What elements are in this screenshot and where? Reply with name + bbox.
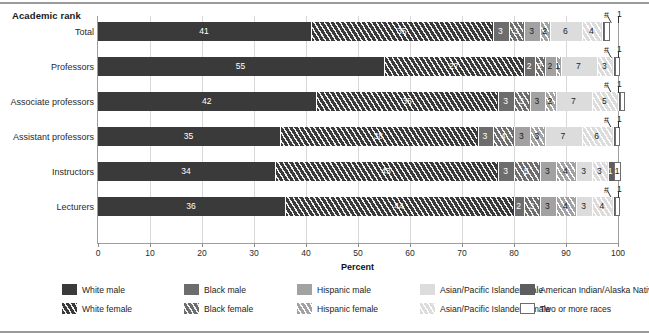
segment-wm[interactable]: 55 bbox=[98, 57, 384, 76]
segment-hf[interactable]: 4 bbox=[556, 162, 577, 181]
bar-0[interactable]: 4135333264 bbox=[98, 22, 610, 41]
segment-bf[interactable]: 3 bbox=[514, 92, 530, 111]
legend: White maleBlack maleHispanic maleAsian/P… bbox=[0, 284, 649, 330]
segment-wm[interactable]: 34 bbox=[98, 162, 275, 181]
segment-bm[interactable]: 3 bbox=[498, 162, 514, 181]
bar-1[interactable]: 5527222173 bbox=[98, 57, 620, 76]
segment-wm[interactable]: 36 bbox=[98, 197, 285, 216]
segment-value: 2 bbox=[548, 62, 553, 71]
bar-4[interactable]: 344335343311 bbox=[98, 162, 621, 181]
segment-wf[interactable]: 35 bbox=[316, 92, 498, 111]
segment-bm[interactable]: 3 bbox=[498, 92, 514, 111]
segment-bf[interactable]: 5 bbox=[514, 162, 540, 181]
segment-hm[interactable]: 3 bbox=[530, 92, 546, 111]
segment-value: 3 bbox=[597, 167, 602, 176]
segment-hf[interactable]: 4 bbox=[556, 197, 577, 216]
segment-hm[interactable]: 3 bbox=[514, 127, 530, 146]
segment-af[interactable]: 6 bbox=[582, 127, 613, 146]
segment-am[interactable]: 7 bbox=[545, 127, 581, 146]
segment-bf[interactable]: 2 bbox=[535, 57, 545, 76]
chart-root: Academic rank 0102030405060708090100 Per… bbox=[0, 0, 649, 335]
segment-hf[interactable]: 2 bbox=[545, 92, 555, 111]
segment-tm[interactable] bbox=[604, 22, 609, 41]
segment-bm[interactable]: 2 bbox=[524, 57, 534, 76]
annotation-leader-one bbox=[618, 16, 619, 23]
segment-tm[interactable] bbox=[620, 92, 625, 111]
segment-af[interactable]: 4 bbox=[592, 197, 613, 216]
segment-wm[interactable]: 41 bbox=[98, 22, 311, 41]
legend-item-bm[interactable]: Black male bbox=[184, 284, 246, 295]
row-label-5: Lecturers bbox=[56, 201, 94, 213]
segment-af[interactable]: 3 bbox=[597, 57, 613, 76]
row-label-2: Associate professors bbox=[10, 96, 94, 108]
legend-swatch-hf bbox=[297, 303, 312, 314]
segment-bf[interactable]: 4 bbox=[493, 127, 514, 146]
x-axis-label-wrap: Percent bbox=[97, 262, 618, 272]
legend-label-hf: Hispanic female bbox=[317, 304, 378, 314]
legend-item-bf[interactable]: Black female bbox=[184, 303, 253, 314]
segment-value: 27 bbox=[449, 62, 458, 71]
legend-item-ai[interactable]: American Indian/Alaska Native bbox=[520, 284, 649, 295]
legend-item-wf[interactable]: White female bbox=[62, 303, 132, 314]
tick-70 bbox=[462, 243, 463, 247]
segment-am[interactable]: 7 bbox=[561, 57, 597, 76]
segment-bm[interactable]: 3 bbox=[493, 22, 509, 41]
segment-value: 7 bbox=[571, 97, 576, 106]
row-label-3: Assistant professors bbox=[13, 131, 94, 143]
bar-2[interactable]: 4235333275 bbox=[98, 92, 625, 111]
segment-bf[interactable]: 3 bbox=[524, 197, 540, 216]
tick-50 bbox=[358, 243, 359, 247]
segment-af[interactable]: 5 bbox=[592, 92, 618, 111]
legend-swatch-bf bbox=[184, 303, 199, 314]
axis-group-title: Academic rank bbox=[12, 10, 81, 21]
tick-30 bbox=[254, 243, 255, 247]
segment-tm[interactable] bbox=[615, 57, 620, 76]
row-label-4: Instructors bbox=[52, 166, 94, 178]
segment-value: 42 bbox=[202, 97, 211, 106]
segment-bf[interactable]: 3 bbox=[509, 22, 525, 41]
segment-value: 35 bbox=[402, 97, 411, 106]
legend-item-tm[interactable]: Two or more races bbox=[520, 303, 611, 314]
segment-hf[interactable]: 2 bbox=[540, 22, 550, 41]
segment-am[interactable]: 7 bbox=[556, 92, 592, 111]
segment-am[interactable]: 3 bbox=[576, 162, 592, 181]
legend-item-hm[interactable]: Hispanic male bbox=[297, 284, 371, 295]
bar-5[interactable]: 3644233434 bbox=[98, 197, 620, 216]
segment-value: 6 bbox=[594, 132, 599, 141]
segment-wf[interactable]: 44 bbox=[285, 197, 514, 216]
segment-hm[interactable]: 3 bbox=[540, 197, 556, 216]
segment-wf[interactable]: 35 bbox=[311, 22, 493, 41]
segment-wm[interactable]: 42 bbox=[98, 92, 316, 111]
segment-wf[interactable]: 43 bbox=[275, 162, 499, 181]
segment-wf[interactable]: 27 bbox=[384, 57, 524, 76]
segment-hf[interactable]: 3 bbox=[530, 127, 546, 146]
legend-item-hf[interactable]: Hispanic female bbox=[297, 303, 378, 314]
top-divider bbox=[0, 2, 649, 4]
segment-hm[interactable]: 3 bbox=[524, 22, 540, 41]
segment-wf[interactable]: 38 bbox=[280, 127, 478, 146]
bar-3[interactable]: 3538343376 bbox=[98, 127, 620, 146]
segment-tm[interactable] bbox=[615, 197, 620, 216]
segment-tm[interactable] bbox=[615, 127, 620, 146]
tick-label-50: 50 bbox=[353, 248, 362, 258]
segment-value: 34 bbox=[181, 167, 190, 176]
segment-value: 1 bbox=[556, 62, 560, 71]
segment-tm[interactable]: 1 bbox=[614, 162, 621, 181]
tick-20 bbox=[202, 243, 203, 247]
segment-value: 2 bbox=[537, 62, 542, 71]
legend-item-wm[interactable]: White male bbox=[62, 284, 125, 295]
segment-am[interactable]: 3 bbox=[576, 197, 592, 216]
segment-am[interactable]: 6 bbox=[550, 22, 581, 41]
segment-af[interactable]: 4 bbox=[582, 22, 603, 41]
segment-wm[interactable]: 35 bbox=[98, 127, 280, 146]
segment-value: 2 bbox=[548, 97, 553, 106]
segment-af[interactable]: 3 bbox=[592, 162, 608, 181]
segment-value: 3 bbox=[581, 202, 586, 211]
segment-hm[interactable]: 3 bbox=[540, 162, 556, 181]
tick-60 bbox=[410, 243, 411, 247]
segment-hm[interactable]: 2 bbox=[545, 57, 555, 76]
segment-bm[interactable]: 2 bbox=[514, 197, 524, 216]
legend-row-female: White femaleBlack femaleHispanic femaleA… bbox=[0, 303, 649, 319]
legend-swatch-af bbox=[420, 303, 435, 314]
segment-bm[interactable]: 3 bbox=[478, 127, 494, 146]
